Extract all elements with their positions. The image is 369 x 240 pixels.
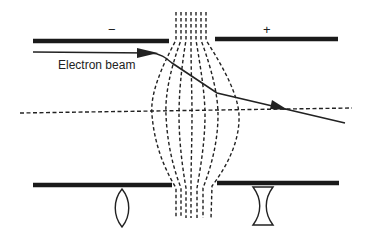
electron-lens-diagram — [0, 0, 369, 240]
concave-lens-icon — [253, 187, 273, 225]
field-line-6 — [201, 12, 218, 218]
field-line-4 — [191, 12, 192, 218]
electron-beam-label: Electron beam — [58, 59, 135, 71]
field-line-5 — [196, 12, 205, 218]
field-line-7 — [206, 12, 239, 218]
beam-arrow-outgoing-icon — [270, 100, 288, 110]
positive-electrode-label: + — [263, 23, 271, 36]
beam-arrow-incoming-icon — [137, 48, 158, 58]
convex-lens-icon — [115, 189, 129, 227]
optical-analogs — [115, 187, 273, 227]
negative-electrode-label: − — [108, 23, 116, 36]
